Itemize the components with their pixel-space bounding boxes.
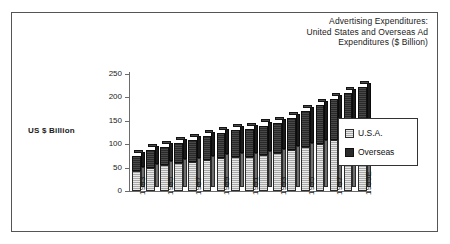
y-tick-label: 50 bbox=[82, 163, 122, 172]
bar-segment-usa[interactable] bbox=[231, 157, 240, 191]
x-tick-label: 1991 bbox=[251, 176, 260, 195]
bar-side-overseas bbox=[169, 143, 173, 162]
bar-segment-overseas[interactable] bbox=[188, 140, 197, 162]
y-tick-label: 150 bbox=[82, 116, 122, 125]
legend-label-overseas: Overseas bbox=[358, 147, 394, 157]
bar-side-overseas bbox=[141, 152, 145, 167]
overseas-swatch-icon bbox=[345, 148, 354, 157]
bar-segment-overseas[interactable] bbox=[245, 129, 254, 157]
bar-group[interactable] bbox=[203, 136, 212, 191]
bar-side-overseas bbox=[310, 107, 314, 143]
bar-side-overseas bbox=[324, 101, 328, 139]
legend-label-usa: U.S.A. bbox=[358, 128, 383, 138]
chart-title: Advertising Expenditures: United States … bbox=[236, 16, 428, 48]
bar-side-usa bbox=[183, 159, 187, 187]
bar-top-face bbox=[360, 81, 369, 84]
bar-segment-usa[interactable] bbox=[287, 150, 296, 191]
bar-side-overseas bbox=[197, 136, 201, 158]
bar-segment-usa[interactable] bbox=[174, 163, 183, 191]
bar-side-overseas bbox=[268, 122, 272, 151]
bar-group[interactable] bbox=[231, 130, 240, 191]
bar-top-face bbox=[318, 99, 327, 102]
bar-segment-usa[interactable] bbox=[316, 144, 325, 191]
chart-legend[interactable]: U.S.A. Overseas bbox=[338, 118, 418, 166]
bar-top-face bbox=[233, 124, 242, 127]
bar-segment-overseas[interactable] bbox=[217, 133, 226, 158]
chart-title-line-1: Advertising Expenditures: bbox=[236, 16, 428, 27]
bar-side-usa bbox=[324, 140, 328, 187]
x-tick-label: 1985 bbox=[166, 176, 175, 195]
bar-side-usa bbox=[296, 146, 300, 187]
chart-figure: Advertising Expenditures: United States … bbox=[0, 0, 450, 244]
bar-segment-overseas[interactable] bbox=[132, 156, 141, 171]
bar-side-overseas bbox=[240, 126, 244, 153]
x-tick-label: 1993 bbox=[279, 176, 288, 195]
bar-segment-usa[interactable] bbox=[146, 168, 155, 191]
bar-segment-overseas[interactable] bbox=[287, 118, 296, 151]
bar-top-face bbox=[148, 144, 157, 147]
bar-segment-overseas[interactable] bbox=[301, 111, 310, 147]
bar-top-face bbox=[134, 150, 143, 153]
bar-side-usa bbox=[268, 151, 272, 187]
bar-side-overseas bbox=[211, 132, 215, 156]
x-tick-label: 1989 bbox=[222, 176, 231, 195]
bar-side-overseas bbox=[183, 139, 187, 159]
bar-top-face bbox=[247, 123, 256, 126]
plot-area bbox=[130, 74, 370, 191]
bar-segment-overseas[interactable] bbox=[203, 136, 212, 160]
y-tick-mark bbox=[125, 191, 130, 192]
bar-segment-overseas[interactable] bbox=[160, 147, 169, 166]
bar-side-overseas bbox=[225, 129, 229, 154]
bar-top-face bbox=[275, 117, 284, 120]
bar-side-overseas bbox=[155, 146, 159, 164]
bar-segment-usa[interactable] bbox=[259, 155, 268, 191]
bar-segment-overseas[interactable] bbox=[231, 130, 240, 157]
bar-side-usa bbox=[240, 153, 244, 187]
y-tick-label: 250 bbox=[82, 69, 122, 78]
bar-top-face bbox=[190, 134, 199, 137]
bar-top-face bbox=[219, 127, 228, 130]
usa-swatch-icon bbox=[345, 129, 354, 138]
bar-segment-overseas[interactable] bbox=[174, 143, 183, 163]
bar-side-usa bbox=[155, 164, 159, 187]
bar-group[interactable] bbox=[316, 105, 325, 191]
bar-top-face bbox=[261, 119, 270, 122]
legend-item-usa[interactable]: U.S.A. bbox=[345, 127, 383, 139]
bar-top-face bbox=[346, 87, 355, 90]
x-tick-label: 1999E bbox=[364, 171, 373, 195]
x-tick-label: 1995 bbox=[307, 176, 316, 195]
bar-side-overseas bbox=[282, 119, 286, 150]
bar-segment-overseas[interactable] bbox=[259, 126, 268, 155]
bar-side-overseas bbox=[296, 114, 300, 147]
bar-top-face bbox=[176, 137, 185, 140]
bar-top-face bbox=[205, 130, 214, 133]
bar-group[interactable] bbox=[174, 143, 183, 191]
bar-segment-overseas[interactable] bbox=[273, 123, 282, 154]
bar-segment-overseas[interactable] bbox=[146, 150, 155, 168]
bar-side-usa bbox=[211, 156, 215, 187]
y-axis-label: US $ Billion bbox=[28, 126, 75, 135]
bar-segment-usa[interactable] bbox=[203, 160, 212, 191]
chart-title-line-3: Expenditures ($ Billion) bbox=[236, 37, 428, 48]
bar-top-face bbox=[289, 112, 298, 115]
x-tick-label: 1997 bbox=[335, 176, 344, 195]
y-tick-label: 100 bbox=[82, 139, 122, 148]
y-tick-label: 200 bbox=[82, 92, 122, 101]
chart-title-line-2: United States and Overseas Ad bbox=[236, 27, 428, 38]
bar-side-overseas bbox=[254, 125, 258, 153]
bar-top-face bbox=[332, 93, 341, 96]
x-tick-label: 1983 bbox=[138, 176, 147, 195]
bar-top-face bbox=[162, 141, 171, 144]
bar-segment-overseas[interactable] bbox=[316, 105, 325, 143]
x-tick-label: 1987 bbox=[194, 176, 203, 195]
legend-item-overseas[interactable]: Overseas bbox=[345, 146, 394, 158]
bar-group[interactable] bbox=[287, 118, 296, 191]
bar-top-face bbox=[303, 105, 312, 108]
bar-group[interactable] bbox=[259, 125, 268, 191]
bar-group[interactable] bbox=[146, 150, 155, 191]
y-tick-label: 0 bbox=[82, 186, 122, 195]
